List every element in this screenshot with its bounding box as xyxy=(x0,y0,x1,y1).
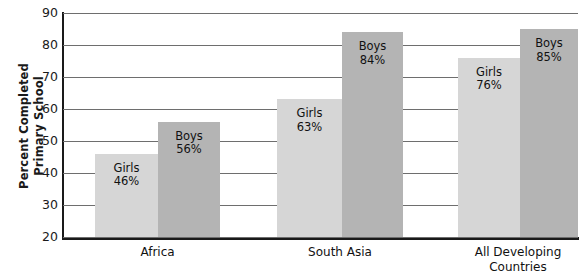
y-axis-tick-labels: 90 80 70 60 50 40 30 20 xyxy=(30,0,58,277)
bar-label-value: 84% xyxy=(342,54,403,68)
bar-label-value: 46% xyxy=(95,175,158,189)
bar-label-all-developing-boys: Boys 85% xyxy=(520,37,578,64)
bar-chart: Percent Completed Primary School 90 80 7… xyxy=(0,0,585,277)
bar-label-series: Boys xyxy=(342,40,403,54)
x-category-label-line-2: Countries xyxy=(458,260,578,275)
bar-label-south-asia-boys: Boys 84% xyxy=(342,40,403,67)
x-category-label-africa: Africa xyxy=(95,245,220,260)
y-tick-80: 80 xyxy=(32,39,58,51)
x-category-label-line-1: Africa xyxy=(95,245,220,260)
plot-area: Girls 46% Boys 56% Girls 63% Boys 84% xyxy=(63,13,578,237)
bar-label-series: Boys xyxy=(158,130,220,144)
bar-label-all-developing-girls: Girls 76% xyxy=(458,66,520,93)
bar-all-developing-girls[interactable]: Girls 76% xyxy=(458,58,520,237)
x-category-label-line-1: South Asia xyxy=(277,245,403,260)
bar-label-series: Girls xyxy=(458,66,520,80)
gridline-20 xyxy=(63,237,578,238)
y-tick-70: 70 xyxy=(32,71,58,83)
bar-south-asia-girls[interactable]: Girls 63% xyxy=(277,99,342,237)
y-tick-20: 20 xyxy=(32,231,58,243)
y-tick-90: 90 xyxy=(32,7,58,19)
gridline-80 xyxy=(63,45,578,46)
y-tick-60: 60 xyxy=(32,103,58,115)
bar-label-series: Girls xyxy=(277,107,342,121)
gridline-90 xyxy=(63,13,578,14)
bar-label-value: 85% xyxy=(520,51,578,65)
y-tick-30: 30 xyxy=(32,199,58,211)
bar-africa-girls[interactable]: Girls 46% xyxy=(95,154,158,237)
bar-south-asia-boys[interactable]: Boys 84% xyxy=(342,32,403,237)
bar-label-africa-boys: Boys 56% xyxy=(158,130,220,157)
x-category-label-line-1: All Developing xyxy=(458,245,578,260)
y-tick-40: 40 xyxy=(32,167,58,179)
x-category-label-all-developing-countries: All Developing Countries xyxy=(458,245,578,275)
bar-all-developing-boys[interactable]: Boys 85% xyxy=(520,29,578,237)
bar-label-series: Boys xyxy=(520,37,578,51)
bar-label-value: 56% xyxy=(158,143,220,157)
bar-label-value: 76% xyxy=(458,79,520,93)
x-category-label-south-asia: South Asia xyxy=(277,245,403,260)
bar-africa-boys[interactable]: Boys 56% xyxy=(158,122,220,237)
bar-label-africa-girls: Girls 46% xyxy=(95,162,158,189)
bar-label-series: Girls xyxy=(95,162,158,176)
bar-label-value: 63% xyxy=(277,121,342,135)
y-tick-50: 50 xyxy=(32,135,58,147)
bar-label-south-asia-girls: Girls 63% xyxy=(277,107,342,134)
